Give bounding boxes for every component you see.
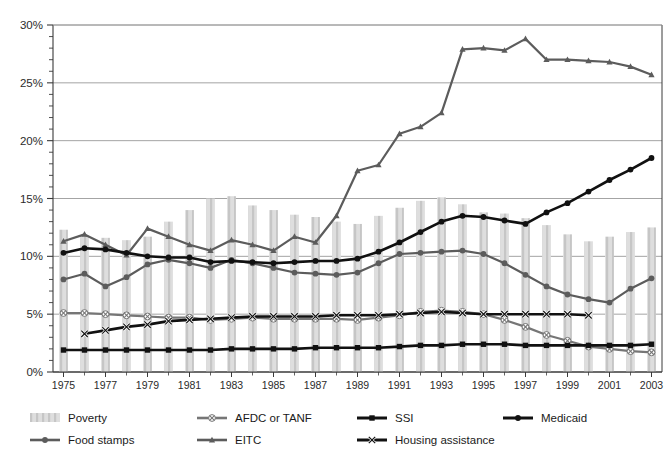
data-point-marker bbox=[145, 262, 151, 268]
data-point-marker bbox=[439, 219, 445, 225]
data-point-marker bbox=[124, 347, 129, 352]
data-point-marker bbox=[607, 177, 613, 183]
data-point-marker bbox=[607, 343, 612, 348]
data-point-marker bbox=[166, 347, 171, 352]
data-point-marker bbox=[627, 348, 634, 355]
x-tick-label: 1989 bbox=[346, 379, 370, 391]
data-point-marker bbox=[376, 249, 382, 255]
poverty-bar bbox=[500, 214, 509, 372]
data-point-marker bbox=[103, 246, 109, 252]
data-point-marker bbox=[397, 344, 402, 349]
data-point-marker bbox=[102, 311, 109, 318]
data-point-marker bbox=[565, 200, 571, 206]
y-tick-label: 0% bbox=[26, 366, 43, 378]
data-point-marker bbox=[523, 272, 529, 278]
data-point-marker bbox=[313, 271, 319, 277]
data-point-marker bbox=[292, 270, 298, 276]
data-point-marker bbox=[544, 343, 549, 348]
legend-label: Food stamps bbox=[68, 434, 135, 446]
data-point-marker bbox=[61, 347, 66, 352]
x-tick-label: 1993 bbox=[430, 379, 454, 391]
data-point-marker bbox=[502, 218, 508, 224]
data-point-marker bbox=[565, 292, 571, 298]
data-point-marker bbox=[355, 270, 361, 276]
data-point-marker bbox=[586, 296, 592, 302]
data-point-marker bbox=[460, 248, 466, 254]
data-point-marker bbox=[376, 345, 381, 350]
poverty-bar bbox=[227, 196, 236, 372]
data-point-marker bbox=[292, 259, 298, 265]
data-point-marker bbox=[271, 260, 277, 266]
x-tick-label: 1979 bbox=[136, 379, 160, 391]
y-tick-label: 20% bbox=[20, 135, 43, 147]
poverty-bar bbox=[584, 241, 593, 372]
data-point-marker bbox=[208, 259, 214, 265]
x-tick-label: 1991 bbox=[388, 379, 412, 391]
x-tick-label: 1975 bbox=[52, 379, 76, 391]
data-point-marker bbox=[187, 347, 192, 352]
data-point-marker bbox=[208, 347, 213, 352]
data-point-marker bbox=[460, 213, 466, 219]
data-point-marker bbox=[124, 250, 130, 256]
data-point-marker bbox=[208, 265, 214, 271]
data-point-marker bbox=[502, 342, 507, 347]
data-point-marker bbox=[586, 189, 592, 195]
data-point-marker bbox=[355, 345, 360, 350]
data-point-marker bbox=[439, 249, 445, 255]
poverty-bar bbox=[479, 212, 488, 372]
legend-label: AFDC or TANF bbox=[235, 412, 312, 424]
data-point-marker bbox=[607, 300, 613, 306]
data-point-marker bbox=[355, 256, 361, 262]
x-tick-label: 2001 bbox=[598, 379, 622, 391]
data-point-marker bbox=[145, 347, 150, 352]
y-tick-label: 10% bbox=[20, 250, 43, 262]
data-point-marker bbox=[481, 342, 486, 347]
data-point-marker bbox=[523, 221, 529, 227]
data-point-marker bbox=[103, 347, 108, 352]
legend-label: Medicaid bbox=[541, 412, 587, 424]
poverty-and-safety-net-program-chart: 0%5%10%15%20%25%30% 19751977197919811983… bbox=[0, 0, 670, 455]
data-point-marker bbox=[250, 259, 256, 265]
data-point-marker bbox=[82, 245, 88, 251]
data-point-marker bbox=[565, 343, 570, 348]
poverty-bar bbox=[521, 218, 530, 372]
data-point-marker bbox=[144, 313, 151, 320]
data-point-marker bbox=[250, 346, 255, 351]
data-point-marker bbox=[502, 260, 508, 266]
data-point-marker bbox=[628, 286, 634, 292]
data-point-marker bbox=[418, 343, 423, 348]
data-point-marker bbox=[649, 342, 654, 347]
data-point-marker bbox=[481, 251, 487, 257]
x-tick-label: 1995 bbox=[472, 379, 496, 391]
data-point-marker bbox=[481, 214, 487, 220]
data-point-marker bbox=[334, 345, 339, 350]
data-point-marker bbox=[522, 323, 529, 330]
data-point-marker bbox=[82, 347, 87, 352]
poverty-bar bbox=[563, 234, 572, 372]
legend-marker-circle-icon bbox=[515, 415, 521, 421]
data-point-marker bbox=[628, 167, 634, 173]
data-point-marker bbox=[334, 258, 340, 264]
data-point-marker bbox=[586, 343, 591, 348]
data-point-marker bbox=[229, 258, 235, 264]
poverty-bar bbox=[206, 199, 215, 373]
data-point-marker bbox=[543, 332, 550, 339]
data-point-marker bbox=[313, 258, 319, 264]
data-point-marker bbox=[81, 310, 88, 317]
data-point-marker bbox=[648, 349, 655, 356]
x-tick-label: 1981 bbox=[178, 379, 202, 391]
data-point-marker bbox=[292, 346, 297, 351]
x-tick-label: 1977 bbox=[94, 379, 118, 391]
data-point-marker bbox=[544, 209, 550, 215]
x-axis-tick-labels: 1975197719791981198319851987198919911993… bbox=[52, 379, 664, 391]
data-point-marker bbox=[544, 284, 550, 290]
data-point-marker bbox=[166, 255, 172, 261]
x-tick-label: 2003 bbox=[640, 379, 664, 391]
data-point-marker bbox=[229, 346, 234, 351]
legend-label: SSI bbox=[395, 412, 414, 424]
data-point-marker bbox=[60, 310, 67, 317]
data-point-marker bbox=[61, 277, 67, 283]
x-tick-label: 1985 bbox=[262, 379, 286, 391]
x-tick-label: 1999 bbox=[556, 379, 580, 391]
data-point-marker bbox=[124, 274, 130, 280]
